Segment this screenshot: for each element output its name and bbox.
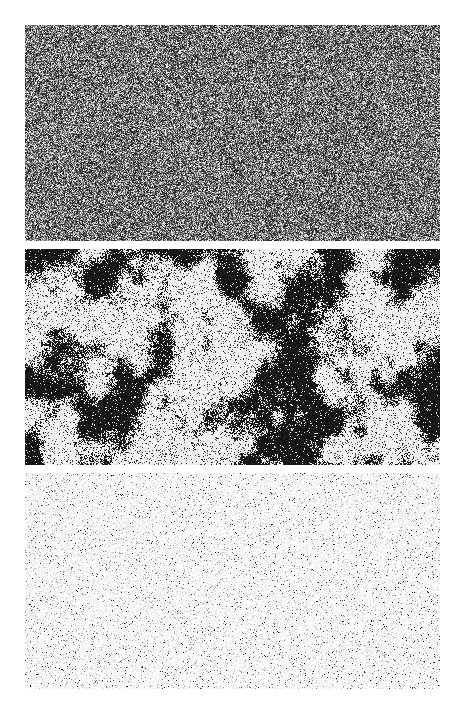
noise-panel-clustered bbox=[25, 249, 440, 465]
noise-panel-disordered bbox=[25, 25, 440, 241]
noise-panel-sparse bbox=[25, 473, 440, 689]
